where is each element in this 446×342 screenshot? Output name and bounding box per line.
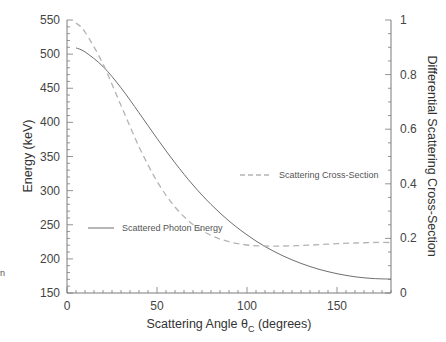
y-tick-label: 250 <box>40 218 60 232</box>
x-tick-label: 0 <box>64 299 71 313</box>
compton-scattering-chart: 15020025030035040045050055000.20.40.60.8… <box>0 0 446 342</box>
data-series <box>76 23 391 279</box>
x-axis-title: Scattering Angle θC (degrees) <box>147 317 312 334</box>
y-tick-label: 300 <box>40 184 60 198</box>
y-tick-label: 350 <box>40 150 60 164</box>
cross-section-curve <box>76 23 391 246</box>
y-tick-label: 200 <box>40 252 60 266</box>
y2-tick-label: 0.4 <box>400 177 417 191</box>
y2-tick-label: 0.8 <box>400 68 417 82</box>
y-tick-label: 150 <box>40 286 60 300</box>
y2-tick-label: 0.2 <box>400 231 417 245</box>
y-tick-label: 400 <box>40 115 60 129</box>
y-tick-label: 500 <box>40 47 60 61</box>
photon-energy-curve <box>76 48 391 279</box>
axis-ticks <box>67 20 391 293</box>
chart-legend: Scattered Photon EnergyScattering Cross-… <box>88 170 379 233</box>
legend-label-photon-energy: Scattered Photon Energy <box>122 223 223 233</box>
x-tick-label: 50 <box>150 299 164 313</box>
axis-tick-labels: 15020025030035040045050055000.20.40.60.8… <box>40 13 417 313</box>
y2-tick-label: 0.6 <box>400 122 417 136</box>
y2-tick-label: 0 <box>400 286 407 300</box>
y2-tick-label: 1 <box>400 13 407 27</box>
legend-label-cross-section: Scattering Cross-Section <box>279 170 379 180</box>
x-tick-label: 100 <box>237 299 257 313</box>
y-tick-label: 550 <box>40 13 60 27</box>
plot-axes <box>67 20 391 293</box>
x-tick-label: 150 <box>327 299 347 313</box>
y-axis-title-left: Energy (keV) <box>21 120 35 193</box>
y-axis-title-right: Differential Scattering Cross-Section <box>425 55 439 256</box>
left-edge-fragment: n <box>0 268 5 278</box>
y-tick-label: 450 <box>40 81 60 95</box>
